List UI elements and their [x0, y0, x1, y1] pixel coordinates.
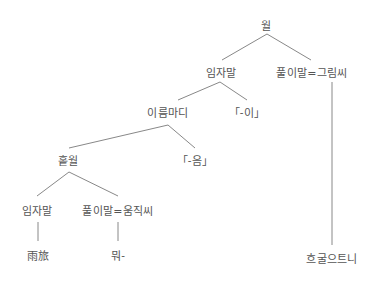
node-suffix-eum: 「-음」	[177, 152, 214, 168]
tree-edges	[0, 0, 388, 283]
tree-edge	[178, 82, 220, 100]
node-subject: 임자말	[206, 64, 237, 80]
node-predicate-adjective: 풀이말=그림씨	[276, 64, 347, 80]
leaf-adjective: 흐굴으트니	[306, 250, 358, 266]
node-noun-clause: 이름마디	[147, 104, 188, 120]
leaf-rain: 雨旅	[27, 247, 50, 263]
node-predicate-verb: 풀이말=움직씨	[82, 202, 153, 218]
tree-edge	[222, 34, 267, 60]
leaf-verb: 뭐-	[111, 247, 125, 263]
node-root-sentence: 월	[261, 17, 271, 33]
node-inner-subject: 임자말	[22, 202, 53, 218]
tree-edge	[168, 125, 195, 148]
syntax-tree-diagram: 월 임자말 풀이말=그림씨 이름마디 「-이」 홑월 「-음」 임자말 풀이말=…	[0, 0, 388, 283]
tree-edge	[69, 172, 118, 196]
tree-edge	[267, 34, 311, 60]
node-simple-sentence: 홑월	[58, 152, 79, 168]
node-particle-i: 「-이」	[229, 104, 266, 120]
tree-edge	[69, 125, 168, 148]
tree-edge	[37, 172, 69, 196]
tree-edge	[220, 82, 247, 100]
